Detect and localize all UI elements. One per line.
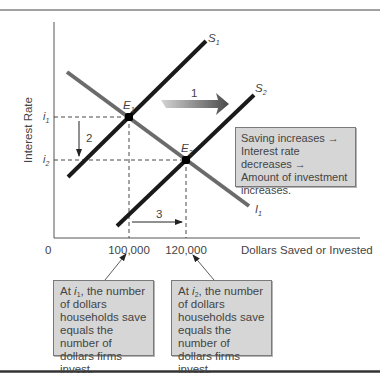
step-1-label: 1 (191, 87, 197, 99)
explanation-box-i1: At i1, the number of dollars households … (53, 280, 154, 356)
right-box-pointer (193, 255, 214, 280)
right-box-prefix: At (178, 285, 192, 297)
s2-label: S2 (255, 82, 267, 96)
e1-label: E1 (123, 99, 135, 113)
x-tick-100000: 100,000 (108, 244, 150, 256)
y-tick-i1: i1 (43, 110, 49, 124)
x-axis-label: Dollars Saved or Invested (241, 244, 373, 256)
explanation-box-i2: At i2, the number of dollars households … (171, 280, 272, 356)
e2-label: E2 (181, 142, 193, 156)
equilibrium-point-e2 (182, 156, 190, 164)
step-2-label: 2 (86, 132, 92, 144)
step-3-label: 3 (156, 208, 162, 220)
summary-line-2: Interest rate decreases → (241, 145, 350, 171)
origin-label: 0 (45, 244, 51, 256)
i1-label: I1 (255, 203, 262, 217)
summary-line-3: Amount of investment (241, 171, 350, 184)
summary-box: Saving increases → Interest rate decreas… (235, 127, 356, 187)
y-tick-i2: i2 (43, 153, 49, 167)
equilibrium-point-e1 (125, 113, 133, 121)
x-tick-120000: 120,000 (165, 244, 207, 256)
summary-line-4: increases. (241, 184, 350, 197)
s1-label: S1 (208, 32, 220, 46)
left-box-prefix: At (60, 285, 74, 297)
summary-line-1: Saving increases → (241, 132, 350, 145)
y-axis-label: Interest Rate (22, 97, 34, 163)
left-box-pointer (105, 254, 126, 280)
